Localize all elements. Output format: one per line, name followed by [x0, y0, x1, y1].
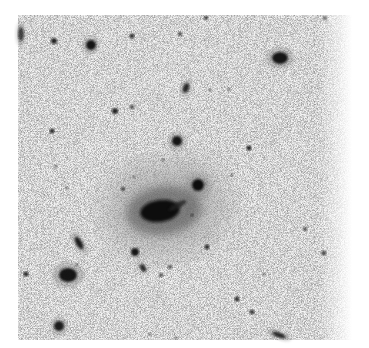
edge-fade	[18, 15, 352, 340]
galaxy-field-image	[0, 0, 369, 348]
sky-field	[16, 15, 352, 344]
